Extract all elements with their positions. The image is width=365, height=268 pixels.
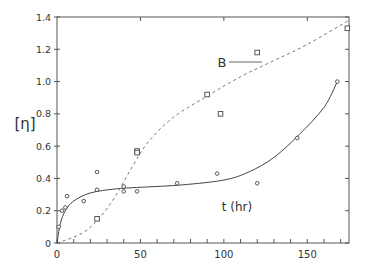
series-a-point (60, 209, 64, 213)
series-a-point (82, 199, 86, 203)
series-a-point (255, 181, 259, 185)
x-tick-label: 0 (54, 249, 60, 260)
series-b-point (95, 216, 100, 221)
fit-curves (57, 20, 349, 243)
series-b-point (205, 92, 210, 97)
series-a-point (215, 172, 219, 176)
series-a-point (64, 206, 68, 210)
series-a-point (95, 188, 99, 192)
series-b-point (255, 50, 260, 55)
axis-labels: 05010015000.20.40.60.81.01.21.4t (hr)[η]… (14, 12, 316, 261)
series-a-point (135, 190, 139, 194)
x-tick-label: 100 (214, 249, 233, 260)
series-b-point (135, 150, 140, 155)
chart-container: 05010015000.20.40.60.81.01.21.4t (hr)[η]… (0, 0, 365, 268)
series-a-point (122, 185, 126, 189)
x-axis-label: t (hr) (222, 200, 252, 214)
y-tick-label: 0.2 (36, 205, 51, 216)
series-b-point (218, 112, 223, 117)
y-tick-label: 0.4 (36, 173, 51, 184)
y-tick-label: 0.8 (36, 108, 51, 119)
y-tick-label: 1.4 (36, 12, 51, 23)
series-a-point (57, 225, 61, 229)
y-tick-label: 1.0 (36, 76, 51, 87)
x-tick-label: 50 (134, 249, 147, 260)
y-tick-label: 1.2 (36, 44, 51, 55)
y-tick-label: 0.6 (36, 141, 51, 152)
plot-frame (57, 17, 349, 243)
y-tick-label: 0 (45, 238, 51, 249)
series-a-point (175, 181, 179, 185)
series-a-point (122, 190, 126, 194)
intrinsic-viscosity-chart: 05010015000.20.40.60.81.01.21.4t (hr)[η]… (0, 0, 365, 268)
axes (54, 17, 349, 243)
y-axis-label: [η] (14, 115, 35, 133)
series-b-fit-curve (57, 20, 349, 243)
series-a-point (65, 194, 69, 198)
x-tick-label: 150 (298, 249, 317, 260)
series-a-point (295, 136, 299, 140)
series-a-point (336, 80, 340, 84)
series-b-annotation: B (218, 55, 227, 70)
series-b-point (345, 26, 350, 31)
series-a-point (95, 170, 99, 174)
